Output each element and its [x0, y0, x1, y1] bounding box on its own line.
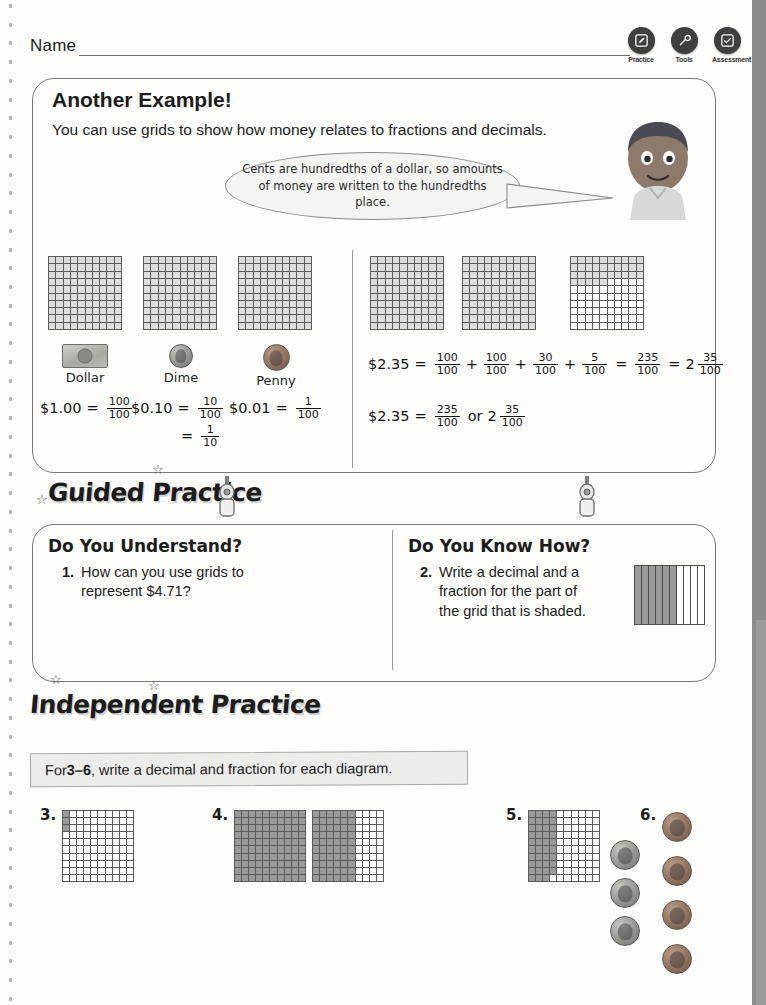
tool-practice[interactable]: Practice [626, 27, 656, 63]
grid-cell [536, 839, 542, 845]
grid-cell [106, 832, 112, 838]
perforation-tick [9, 454, 12, 458]
grid-cell [86, 294, 92, 300]
grid-cell [313, 846, 319, 852]
perforation-tick [9, 248, 12, 252]
perforation-tick [9, 828, 12, 832]
grid-cell [86, 315, 92, 321]
grid-cell [378, 301, 384, 307]
term-3: 30 100 [533, 352, 558, 376]
grid-cell [470, 308, 476, 314]
problem-4-grid-a[interactable] [234, 810, 306, 882]
perforation-tick [9, 135, 12, 139]
grid-cell [305, 264, 311, 270]
grid-cell [305, 272, 311, 278]
grid-cell [77, 825, 83, 831]
hundredths-grid-235-2 [462, 256, 536, 330]
grid-column [691, 566, 697, 624]
grid-cell [543, 832, 549, 838]
perforation-tick [9, 716, 12, 720]
grid-cell [586, 264, 592, 270]
penny-coin-icon [662, 856, 692, 886]
grid-cell [593, 286, 599, 292]
grid-cell [261, 279, 267, 285]
grid-cell [159, 272, 165, 278]
grid-cell [507, 286, 513, 292]
grid-cell [63, 818, 69, 824]
grid-cell [256, 818, 262, 824]
perforation-tick [9, 622, 12, 626]
grid-cell [242, 875, 248, 881]
grid-cell [571, 279, 577, 285]
perforation-tick [9, 416, 12, 420]
grid-cell [586, 839, 592, 845]
problem-4-grid-b[interactable] [312, 810, 384, 882]
grid-cell [408, 308, 414, 314]
grid-cell [210, 279, 216, 285]
perforated-edge [6, 0, 16, 1005]
grid-cell [550, 818, 556, 824]
problem-5-grid[interactable] [528, 810, 600, 882]
grid-cell [235, 832, 241, 838]
grid-cell [63, 868, 69, 874]
grid-cell [56, 286, 62, 292]
grid-cell [564, 825, 570, 831]
grid-cell [470, 294, 476, 300]
grid-cell [521, 257, 527, 263]
grid-cell [242, 811, 248, 817]
grid-cell [521, 294, 527, 300]
hundredths-grid-235-1 [370, 256, 444, 330]
grid-cell [334, 832, 340, 838]
grid-cell [127, 839, 133, 845]
grid-cell [408, 272, 414, 278]
grid-cell [254, 301, 260, 307]
grid-cell [290, 315, 296, 321]
grid-cell [188, 264, 194, 270]
grid-cell [283, 286, 289, 292]
perforation-tick [9, 266, 12, 270]
name-input-line[interactable] [79, 41, 630, 56]
grid-cell [270, 854, 276, 860]
grid-cell [144, 301, 150, 307]
grid-cell [572, 854, 578, 860]
grid-cell [290, 264, 296, 270]
grid-cell [608, 286, 614, 292]
grid-cell [299, 839, 305, 845]
grid-cell [166, 272, 172, 278]
grid-cell [151, 279, 157, 285]
grid-cell [70, 839, 76, 845]
grid-cell [363, 861, 369, 867]
grid-cell [356, 811, 362, 817]
problem-3-grid[interactable] [62, 810, 134, 882]
problem-6-coins [600, 800, 720, 930]
grid-cell [470, 257, 476, 263]
grid-cell [608, 264, 614, 270]
tool-assessment[interactable]: Assessment [712, 27, 742, 63]
grid-cell [600, 279, 606, 285]
grid-cell [78, 308, 84, 314]
grid-cell [100, 301, 106, 307]
fraction-100-over-100: 100 100 [107, 396, 132, 420]
grid-cell [377, 818, 383, 824]
grid-cell [115, 257, 121, 263]
grid-cell [290, 286, 296, 292]
grid-cell [98, 868, 104, 874]
grid-cell [113, 825, 119, 831]
grid-cell [305, 308, 311, 314]
grid-cell [113, 818, 119, 824]
grid-cell [235, 811, 241, 817]
grid-cell [127, 811, 133, 817]
tool-tools[interactable]: Tools [669, 27, 699, 63]
grid-cell [500, 294, 506, 300]
grid-cell [173, 323, 179, 329]
grid-cell [341, 818, 347, 824]
grid-cell [543, 868, 549, 874]
grid-cell [113, 846, 119, 852]
grid-cell [78, 279, 84, 285]
fraction-1-over-10: 1 10 [201, 424, 219, 448]
grid-cell [557, 868, 563, 874]
grid-cell [93, 279, 99, 285]
grid-cell [249, 854, 255, 860]
perforation-tick [9, 191, 12, 195]
grid-cell [173, 301, 179, 307]
